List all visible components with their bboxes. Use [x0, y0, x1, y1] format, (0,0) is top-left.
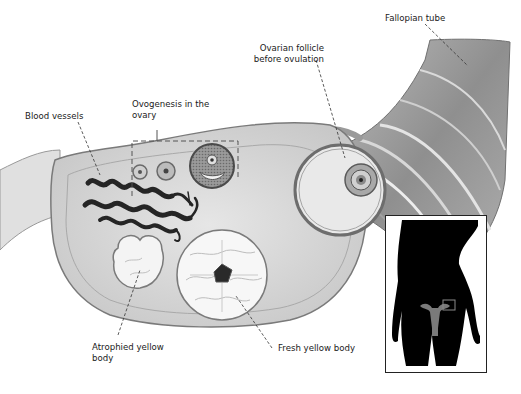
label-atrophied-line1: Atrophied yellow [92, 342, 164, 353]
atrophied-yellow-body [113, 236, 163, 289]
label-blood-vessels: Blood vessels [25, 111, 83, 122]
label-ovarian-follicle-line1: Ovarian follicle [240, 43, 324, 54]
ovarian-follicle [295, 145, 385, 235]
label-fallopian-tube: Fallopian tube [385, 13, 445, 24]
label-ovogenesis-line1: Ovogenesis in the [132, 99, 209, 110]
fresh-yellow-body [177, 230, 267, 320]
ovary-diagram: Fallopian tube Ovarian follicle before o… [0, 0, 521, 394]
label-fresh-yellow-body: Fresh yellow body [278, 343, 355, 354]
label-ovarian-follicle-line2: before ovulation [220, 54, 324, 65]
silhouette-body [392, 220, 480, 366]
label-ovogenesis-line2: ovary [132, 110, 156, 121]
female-silhouette [386, 216, 485, 371]
body-location-inset [385, 215, 487, 373]
label-atrophied-line2: body [92, 353, 113, 364]
